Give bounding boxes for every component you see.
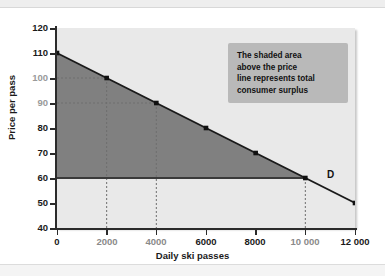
x-tick-4000	[156, 230, 158, 235]
top-band	[0, 0, 385, 7]
y-tick-label-100: 100	[20, 73, 48, 83]
data-point-6000	[204, 126, 209, 131]
bottom-band	[0, 265, 385, 276]
data-point-4000	[154, 101, 159, 106]
x-tick-0	[57, 230, 59, 235]
x-tick-12000	[355, 230, 357, 235]
y-tick-110	[50, 53, 55, 55]
y-axis-title: Price per pass	[6, 53, 17, 163]
x-tick-label-2000: 2000	[96, 236, 117, 247]
note-line-3: line represents total	[237, 73, 340, 85]
x-axis-title: Daily ski passes	[0, 250, 385, 261]
y-tick-label-40: 40	[20, 223, 48, 233]
y-tick-label-80: 80	[20, 123, 48, 133]
demand-curve-label: D	[327, 169, 334, 180]
data-point-2000	[104, 76, 109, 81]
y-tick-label-90: 90	[20, 98, 48, 108]
x-tick-label-10000: 10 000	[290, 236, 319, 247]
note-line-1: The shaded area	[237, 50, 340, 62]
consumer-surplus-note: The shaded area above the price line rep…	[228, 43, 348, 103]
y-tick-120	[50, 28, 55, 30]
y-tick-70	[50, 153, 55, 155]
y-tick-label-70: 70	[20, 148, 48, 158]
x-tick-label-12000: 12 000	[340, 236, 369, 247]
figure-container: 120 110 100 90 80 70 60 50 40 0 2000 400…	[0, 0, 385, 276]
x-tick-label-0: 0	[54, 236, 59, 247]
y-tick-label-60: 60	[20, 173, 48, 183]
y-axis-line	[55, 26, 57, 230]
y-tick-40	[50, 228, 55, 230]
y-tick-60	[50, 178, 55, 180]
x-tick-10000	[305, 230, 307, 235]
top-divider	[0, 7, 385, 8]
x-tick-label-4000: 4000	[145, 236, 166, 247]
y-tick-label-110: 110	[20, 48, 48, 58]
note-line-4: consumer surplus	[237, 85, 340, 97]
y-tick-90	[50, 103, 55, 105]
data-point-12000	[353, 201, 355, 206]
x-tick-2000	[106, 230, 108, 235]
x-tick-label-8000: 8000	[244, 236, 265, 247]
data-point-10000	[303, 176, 308, 181]
note-line-2: above the price	[237, 62, 340, 74]
x-tick-6000	[206, 230, 208, 235]
x-tick-label-6000: 6000	[195, 236, 216, 247]
y-tick-80	[50, 128, 55, 130]
y-tick-label-120: 120	[20, 23, 48, 33]
x-tick-8000	[255, 230, 257, 235]
y-tick-label-50: 50	[20, 198, 48, 208]
y-tick-50	[50, 203, 55, 205]
data-point-8000	[253, 151, 258, 156]
y-tick-100	[50, 78, 55, 80]
data-point-0	[57, 51, 59, 56]
